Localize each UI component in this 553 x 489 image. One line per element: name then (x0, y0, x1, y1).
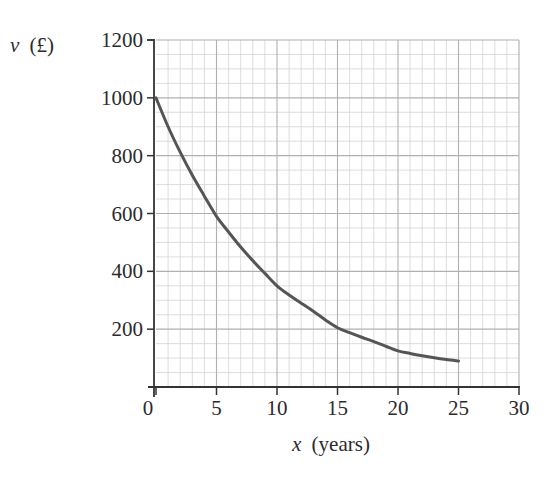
y-tick-label: 600 (112, 202, 144, 226)
value-curve (156, 98, 459, 361)
x-tick-label: 25 (448, 396, 469, 420)
y-axis-tick-labels: 20040060080010001200 (101, 28, 143, 341)
x-tick-label: 10 (267, 396, 288, 420)
x-axis-title: x (years) (291, 432, 370, 456)
x-axis-variable: x (291, 432, 302, 456)
y-tick-label: 800 (112, 144, 144, 168)
y-tick-label: 1200 (101, 28, 143, 52)
y-tick-label: 400 (112, 259, 144, 283)
y-axis-unit: (£) (30, 33, 55, 57)
decay-chart: 051015202530 20040060080010001200 v (£) … (0, 0, 553, 489)
x-tick-label: 5 (211, 396, 222, 420)
y-axis-variable: v (10, 33, 20, 57)
x-axis-tick-labels: 051015202530 (143, 396, 530, 420)
y-tick-label: 1000 (101, 86, 143, 110)
x-axis-unit: (years) (312, 432, 370, 456)
grid-major (156, 40, 519, 387)
x-tick-label: 20 (388, 396, 409, 420)
x-tick-label: 30 (509, 396, 530, 420)
y-axis-title: v (£) (10, 33, 54, 57)
x-tick-label: 0 (143, 396, 154, 420)
y-tick-label: 200 (112, 317, 144, 341)
x-tick-label: 15 (327, 396, 348, 420)
